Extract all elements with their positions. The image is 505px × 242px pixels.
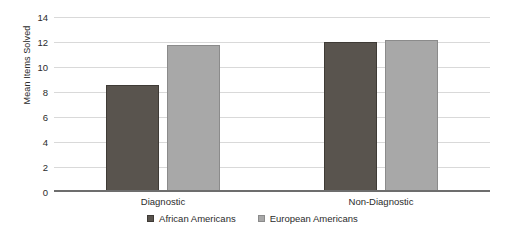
legend: African AmericansEuropean Americans	[0, 213, 505, 224]
legend-item: European Americans	[258, 213, 358, 224]
legend-swatch-icon	[147, 215, 154, 222]
y-axis-tick-label: 2	[43, 162, 48, 173]
x-axis-category-label: Non-Diagnostic	[349, 196, 414, 207]
x-axis-category-label: Diagnostic	[141, 196, 185, 207]
y-axis-tick-label: 4	[43, 137, 48, 148]
legend-swatch-icon	[258, 215, 265, 222]
y-axis-tick-label: 0	[43, 187, 48, 198]
y-axis-tick-label: 6	[43, 112, 48, 123]
y-axis-tick-label: 8	[43, 87, 48, 98]
y-axis-tick-label: 14	[37, 12, 48, 23]
bar-diagnostic-european-americans	[167, 45, 220, 192]
bars	[54, 17, 490, 192]
bar-chart: Mean Items Solved 02468101214 Diagnostic…	[0, 0, 505, 242]
bar-diagnostic-african-americans	[106, 85, 159, 193]
legend-item: African Americans	[147, 213, 236, 224]
x-axis-line	[54, 190, 490, 192]
legend-label: African Americans	[159, 213, 236, 224]
bar-non-diagnostic-european-americans	[385, 40, 438, 193]
plot-area: 02468101214	[54, 17, 490, 192]
y-axis-tick-label: 10	[37, 62, 48, 73]
y-axis-tick-label: 12	[37, 37, 48, 48]
bar-non-diagnostic-african-americans	[324, 42, 377, 192]
y-axis-title: Mean Items Solved	[22, 0, 32, 130]
legend-label: European Americans	[270, 213, 358, 224]
